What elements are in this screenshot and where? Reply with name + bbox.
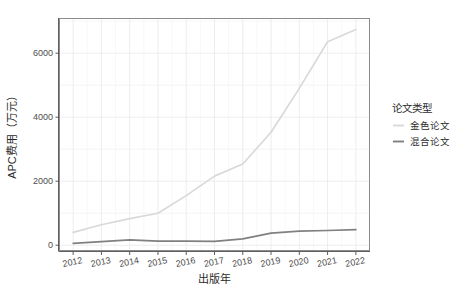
line-chart-svg: 0200040006000 20122013201420152016201720… (0, 0, 469, 290)
plot-panel (59, 18, 370, 251)
x-axis-title: 出版年 (198, 272, 231, 285)
y-axis-title: APC费用（万元） (6, 90, 18, 179)
y-tick-label: 4000 (33, 112, 53, 122)
legend-label-金色论文: 金色论文 (410, 120, 450, 131)
chart-container: 0200040006000 20122013201420152016201720… (0, 0, 469, 290)
y-tick-label: 6000 (33, 48, 53, 58)
legend-label-混合论文: 混合论文 (410, 136, 450, 147)
y-tick-label: 0 (48, 240, 53, 250)
legend-title: 论文类型 (392, 102, 432, 114)
y-tick-label: 2000 (33, 176, 53, 186)
